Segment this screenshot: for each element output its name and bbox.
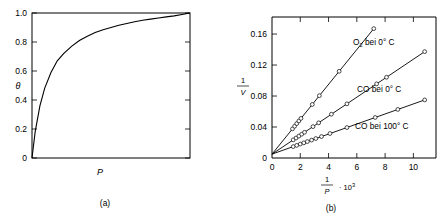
data-point [328,132,332,136]
panel-a-y-ticks [32,13,190,158]
data-point [317,121,321,125]
data-point [423,98,427,102]
panel-a-y-ticklabel: 1.0 [15,8,27,18]
panel-a-x-axis-label: P [97,167,103,177]
data-point [310,138,314,142]
panel-b-x-axis-label: 1 P · 103 [321,175,355,196]
data-point [337,69,341,73]
panel-b-y-ticklabel: 0 [262,153,267,163]
panel-a-y-ticklabel: 0.2 [15,124,27,134]
series-label-co-100c: CO bei 100° C [355,121,409,131]
data-point [299,117,303,121]
series-label-o2: O2 bei 0° C [353,37,395,48]
panel-b-y-ticklabel: 0.16 [250,29,267,39]
panel-a-caption: (a) [100,198,111,208]
panel-b-y-ticklabel: 0.08 [250,91,267,101]
panel-b-x-ticks [300,153,413,158]
data-point [303,130,307,134]
langmuir-isotherm-curve [32,13,190,158]
panel-a-y-ticklabel: 0.4 [15,95,27,105]
data-point [320,135,324,139]
panel-a-frame [32,13,190,158]
panel-b-y-ticks [272,34,277,127]
panel-b-x-ticklabel: 10 [409,162,419,172]
data-point [396,108,400,112]
panel-b-fit-lines [272,29,425,155]
data-point [372,27,376,31]
data-point [345,102,349,106]
panel-a-y-ticklabel: 0.8 [15,37,27,47]
data-point [317,94,321,98]
panel-b-top-ticks [300,17,413,22]
panel-b-y-ticklabel: 0.04 [250,122,267,132]
data-point [385,75,389,79]
x-label-numerator: 1 [325,175,329,184]
data-point [373,116,377,120]
panel-a-plot-area: 00.20.40.60.81.0 θ P [15,8,190,177]
panel-b-x-ticklabel: 0 [270,162,275,172]
y-label-denominator: V [240,88,246,97]
panel-b-chart: 00.040.080.120.16 0246810 O2 bei 0° C CO… [221,0,442,220]
panel-b-x-ticklabel: 8 [383,162,388,172]
series-label-co-0c: CO bei 0° C [357,84,401,94]
panel-a-y-axis-label: θ [16,81,21,91]
data-point [311,125,315,129]
x-label-denominator: P [324,187,329,196]
x-label-factor: · 103 [339,182,355,192]
panel-b-x-ticklabels: 0246810 [270,162,419,172]
panel-b-caption: (b) [326,203,337,213]
panel-a-y-ticklabel: 0 [22,153,27,163]
panel-b-y-ticklabel: 0.12 [250,60,267,70]
panel-b-y-axis-label: 1 V [237,76,249,97]
panel-b-x-ticklabel: 6 [354,162,359,172]
data-point [310,103,314,107]
panel-b-plot-area: 00.040.080.120.16 0246810 O2 bei 0° C CO… [237,17,436,196]
y-label-numerator: 1 [241,76,245,85]
panel-b-x-ticklabel: 4 [326,162,331,172]
panel-a-chart: 00.20.40.60.81.0 θ P (a) [0,0,221,220]
data-point [345,126,349,130]
data-point [314,137,318,141]
panel-a-y-ticklabel: 0.6 [15,66,27,76]
panel-b-y-ticklabels: 00.040.080.120.16 [250,29,267,163]
figure-container: 00.20.40.60.81.0 θ P (a) 00.040.080.120.… [0,0,442,220]
panel-b-x-ticklabel: 2 [298,162,303,172]
data-point [305,140,309,144]
data-point [329,112,333,116]
data-point [423,50,427,54]
